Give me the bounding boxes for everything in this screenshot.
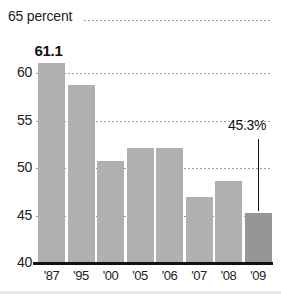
gridline-65 — [84, 20, 272, 21]
x-tick-09: '09 — [243, 268, 273, 283]
bar-06 — [156, 148, 183, 263]
top-axis-label: 65 percent — [8, 8, 72, 24]
bar-00 — [97, 161, 124, 263]
callout-label-09: 45.3% — [228, 117, 266, 133]
y-tick-50: 50 — [0, 159, 32, 175]
callout-leader-line — [258, 139, 259, 211]
y-tick-60: 60 — [0, 64, 32, 80]
x-tick-08: '08 — [214, 268, 244, 283]
y-tick-55: 55 — [0, 112, 32, 128]
axis-baseline — [33, 262, 273, 265]
x-tick-87: '87 — [37, 268, 67, 283]
x-tick-95: '95 — [66, 268, 96, 283]
bar-08 — [215, 181, 242, 263]
bars — [36, 26, 272, 263]
bar-05 — [127, 148, 154, 263]
bar-07 — [186, 197, 213, 263]
y-tick-45: 45 — [0, 207, 32, 223]
bar-chart: 65 percent 4045505560 '87'95'00'05'06'07… — [0, 0, 281, 294]
data-label-87: 61.1 — [35, 42, 63, 59]
y-tick-40: 40 — [0, 254, 32, 270]
x-tick-05: '05 — [125, 268, 155, 283]
x-tick-00: '00 — [96, 268, 126, 283]
x-tick-07: '07 — [184, 268, 214, 283]
bar-09 — [245, 213, 272, 263]
bar-95 — [68, 85, 95, 263]
bar-87 — [38, 63, 65, 263]
x-tick-06: '06 — [155, 268, 185, 283]
